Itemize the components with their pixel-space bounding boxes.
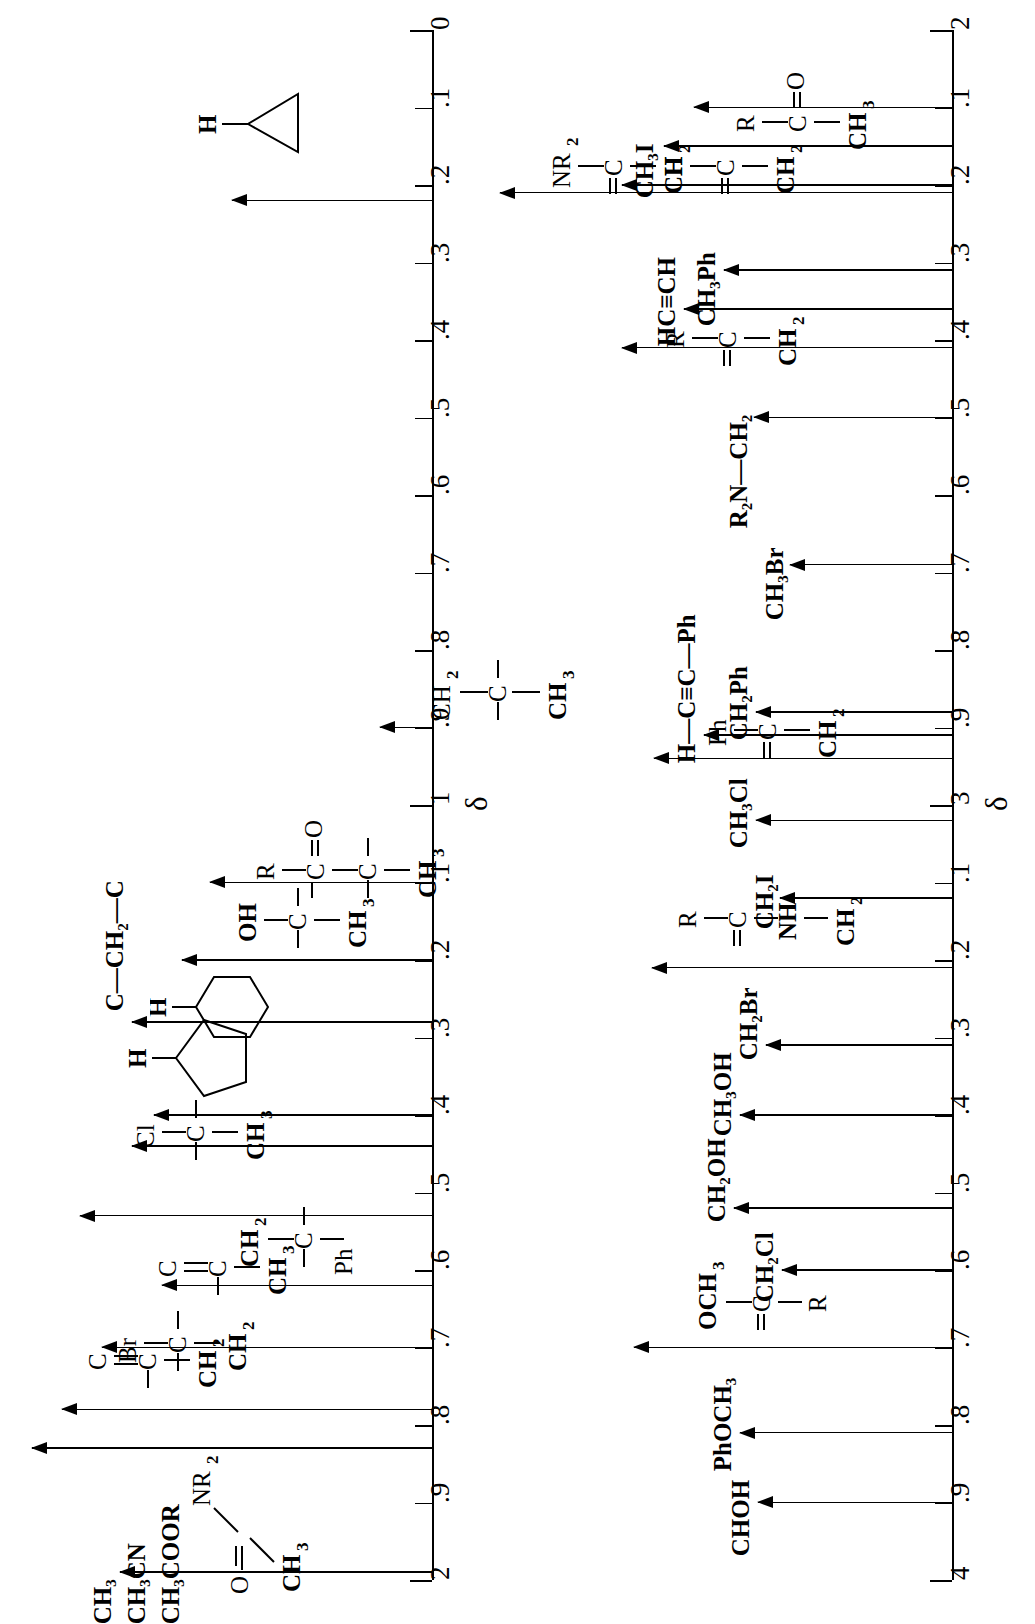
svg-text:C: C	[748, 1295, 775, 1312]
svg-text:3: 3	[859, 101, 878, 110]
axis-tick-label: .7	[427, 552, 454, 572]
axis-tick	[930, 30, 952, 32]
entry-label-PhOCH3: PhOCH₃	[710, 1378, 736, 1472]
svg-text:OH: OH	[234, 903, 261, 942]
svg-text:2: 2	[829, 709, 848, 718]
structure-CH3-C-Cl: CH3CCl	[76, 1052, 280, 1162]
structure-CH3-C-CH2: CH3CCH2	[378, 652, 582, 722]
svg-text:C: C	[754, 723, 781, 740]
axis-tick-label: .3	[427, 242, 454, 262]
svg-text:2: 2	[563, 138, 582, 147]
svg-text:2: 2	[239, 1322, 258, 1331]
axis-tick-label: .2	[947, 940, 974, 960]
axis-tick-label: .5	[427, 397, 454, 417]
svg-text:3: 3	[709, 1262, 728, 1271]
axis-tick	[935, 340, 952, 342]
axis-tick-label: .3	[947, 1017, 974, 1037]
pointer-arrow	[758, 1502, 952, 1504]
svg-text:CH: CH	[660, 156, 687, 194]
axis-tick	[415, 1270, 432, 1272]
svg-text:CH: CH	[344, 910, 371, 948]
axis-tick	[935, 495, 952, 497]
axis-tick-label: 4	[947, 1567, 974, 1581]
axis-tick	[930, 805, 952, 807]
svg-text:CH: CH	[774, 328, 801, 366]
svg-text:CH: CH	[194, 1350, 221, 1388]
axis-tick	[935, 1425, 952, 1427]
svg-text:O: O	[300, 820, 327, 838]
axis-tick-label: .5	[947, 1172, 974, 1192]
svg-text:CH: CH	[414, 860, 441, 898]
structure-CH3-C-OH: CH3COH	[178, 840, 382, 950]
axis-tick-label: .1	[947, 87, 974, 107]
axis-tick-label: .4	[427, 1095, 454, 1115]
axis-tick-label: .9	[427, 1482, 454, 1502]
structure-CH3-CO-NR2: CH3ONR2	[114, 1394, 318, 1594]
svg-text:C: C	[84, 1353, 111, 1370]
svg-text:2: 2	[789, 317, 808, 326]
svg-text:C: C	[134, 1353, 161, 1370]
svg-text:C: C	[714, 331, 741, 348]
structure-CH2-CO-R: CH2CR	[618, 258, 812, 368]
svg-text:C: C	[712, 159, 739, 176]
pointer-arrow	[652, 967, 952, 969]
svg-text:CH: CH	[544, 682, 571, 720]
svg-text:H: H	[194, 114, 221, 134]
svg-text:R: R	[662, 331, 689, 348]
svg-text:NR: NR	[188, 1471, 215, 1506]
axis-tick-label: .8	[947, 1405, 974, 1425]
svg-text:3: 3	[559, 671, 578, 680]
svg-text:CH: CH	[242, 1122, 269, 1160]
svg-text:3: 3	[359, 899, 378, 908]
structure-cyclopropane-H: H	[190, 72, 314, 172]
svg-text:Ph: Ph	[704, 719, 731, 746]
axis-tick-label: .6	[947, 1250, 974, 1270]
svg-text:CH: CH	[814, 720, 841, 758]
svg-text:CH: CH	[278, 1554, 305, 1592]
axis-tick-label: .9	[947, 1482, 974, 1502]
pointer-arrow	[380, 727, 432, 729]
pointer-arrow	[790, 564, 952, 566]
svg-text:OCH: OCH	[694, 1273, 721, 1331]
svg-text:3: 3	[257, 1111, 276, 1120]
svg-text:CH: CH	[264, 1257, 291, 1295]
svg-text:C: C	[724, 911, 751, 928]
axis-tick-label: .4	[947, 320, 974, 340]
axis-tick	[935, 960, 952, 962]
svg-text:3: 3	[429, 849, 448, 858]
entry-label-CH3CO-NR2 / CH3CN / CH3COOR: CH₃	[90, 1579, 116, 1624]
entry-label-CH3OH: CH₃OH	[710, 1052, 736, 1136]
pointer-arrow	[740, 1114, 952, 1116]
structure-R-CO-OCH3: RCOCH3	[630, 1172, 844, 1332]
svg-text:2: 2	[209, 1339, 228, 1348]
axis-tick-label: .6	[427, 1250, 454, 1270]
svg-text:C: C	[182, 1125, 209, 1142]
svg-text:2: 2	[787, 145, 806, 154]
axis-tick-label: .6	[947, 475, 974, 495]
axis-tick-label: 0	[427, 17, 454, 31]
axis-tick-label: .8	[947, 630, 974, 650]
axis-tick	[415, 495, 432, 497]
svg-text:CH: CH	[844, 112, 871, 150]
svg-text:NH: NH	[774, 902, 801, 940]
svg-text:R: R	[804, 1295, 831, 1312]
pointer-arrow	[634, 1347, 952, 1349]
svg-text:3: 3	[279, 1246, 298, 1255]
svg-text:CH: CH	[832, 908, 859, 946]
svg-text:Cl: Cl	[132, 1124, 159, 1148]
svg-text:CH: CH	[428, 685, 455, 720]
axis-tick	[415, 340, 432, 342]
axis-tick-label: .2	[427, 940, 454, 960]
axis-tick-label: .5	[947, 397, 974, 417]
axis-tick-label: .1	[947, 862, 974, 882]
entry-label-CHOH: CHOH	[728, 1480, 754, 1556]
pointer-arrow	[182, 959, 432, 961]
axis-tick-label: .4	[947, 1095, 974, 1115]
svg-text:3: 3	[293, 1543, 312, 1552]
svg-text:2: 2	[443, 671, 462, 680]
structure-CH2-C=C: CH2CC	[28, 1290, 232, 1390]
svg-text:Ph: Ph	[330, 1248, 357, 1275]
pointer-arrow	[754, 417, 952, 419]
axis-tick-label: .8	[427, 630, 454, 650]
